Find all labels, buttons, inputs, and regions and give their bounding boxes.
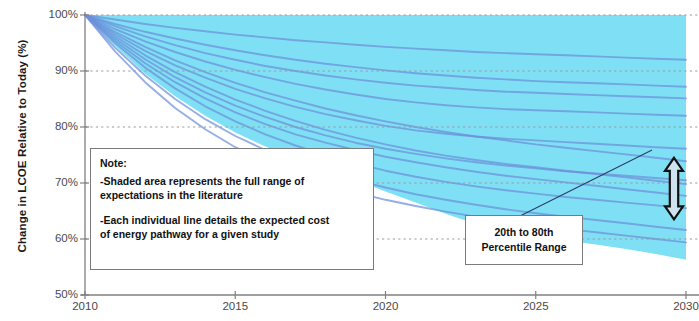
x-tick-label: 2010 <box>72 300 98 312</box>
callout-line-1: 20th to 80th <box>495 225 554 240</box>
y-tick-label: 80% <box>38 120 78 132</box>
y-tick-label: 100% <box>38 8 78 20</box>
y-tick-label: 60% <box>38 232 78 244</box>
y-tick-label: 90% <box>38 64 78 76</box>
note-line-3: -Each individual line details the expect… <box>100 213 364 227</box>
x-tick-label: 2025 <box>523 300 549 312</box>
note-annotation-box: Note: -Shaded area represents the full r… <box>90 148 374 270</box>
x-tick-label: 2030 <box>673 300 699 312</box>
y-tick-label: 50% <box>38 288 78 300</box>
x-tick-label: 2015 <box>222 300 248 312</box>
note-line-2: expectations in the literature <box>100 188 364 202</box>
y-tick-label: 70% <box>38 176 78 188</box>
chart-container: Change in LCOE Relative to Today (%) 100… <box>0 0 699 321</box>
note-line-1: -Shaded area represents the full range o… <box>100 174 364 188</box>
callout-line-2: Percentile Range <box>481 240 566 255</box>
percentile-callout-box: 20th to 80th Percentile Range <box>465 215 583 265</box>
note-line-4: of energy pathway for a given study <box>100 227 364 241</box>
note-spacer <box>100 202 364 213</box>
x-tick-label: 2020 <box>373 300 399 312</box>
note-title: Note: <box>100 157 364 170</box>
